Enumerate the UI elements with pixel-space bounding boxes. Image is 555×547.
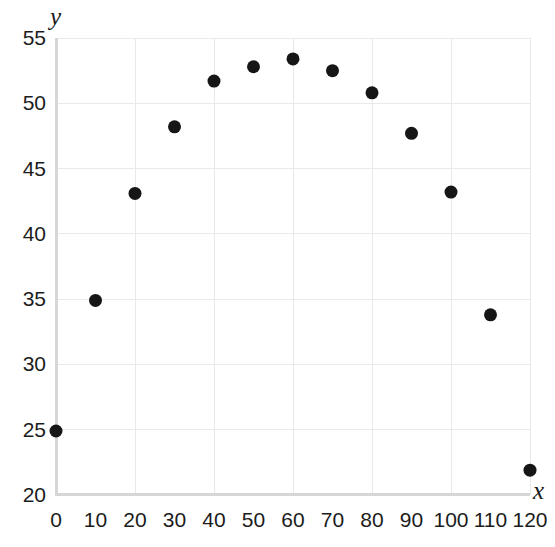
- y-tick-label: 30: [2, 352, 46, 376]
- y-tick-label: 55: [2, 26, 46, 50]
- x-axis-title: x: [533, 478, 544, 503]
- data-point: [326, 64, 339, 77]
- data-point: [524, 464, 537, 477]
- data-point: [445, 186, 458, 199]
- y-tick-label: 25: [2, 418, 46, 442]
- data-point: [129, 187, 142, 200]
- data-point: [168, 120, 181, 133]
- y-tick-label: 35: [2, 287, 46, 311]
- y-tick-label: 20: [2, 483, 46, 507]
- data-point: [50, 425, 63, 438]
- data-point: [405, 127, 418, 140]
- data-point: [208, 75, 221, 88]
- data-point: [287, 52, 300, 65]
- y-tick-label: 50: [2, 91, 46, 115]
- scatter-chart: y x 2025303540455055 0102030405060708090…: [0, 0, 555, 547]
- data-point: [89, 294, 102, 307]
- y-tick-label: 45: [2, 157, 46, 181]
- data-point: [247, 60, 260, 73]
- x-tick-label: 120: [507, 508, 553, 532]
- plot-area: [56, 38, 530, 495]
- y-axis-title: y: [50, 4, 61, 29]
- y-tick-label: 40: [2, 222, 46, 246]
- data-point: [484, 308, 497, 321]
- data-points-layer: [56, 38, 530, 495]
- data-point: [366, 86, 379, 99]
